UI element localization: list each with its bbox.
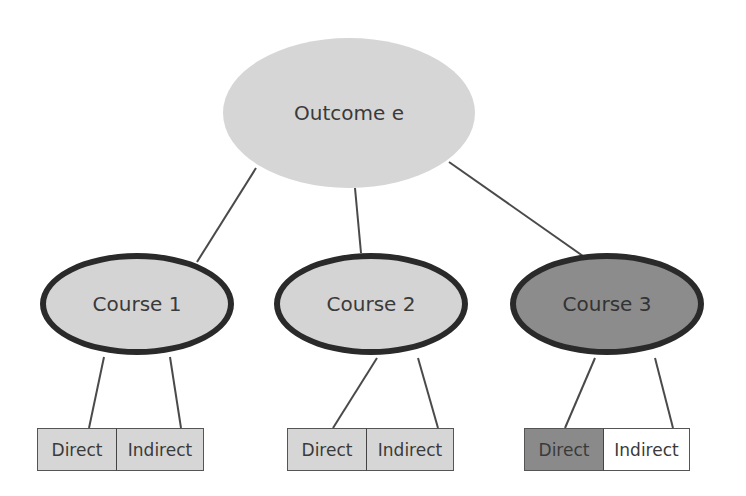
course-3-direct-box: Direct	[524, 428, 604, 471]
course-1-node: Course 1	[40, 253, 234, 355]
outcome-label: Outcome e	[294, 101, 404, 125]
course-2-indirect-box: Indirect	[367, 428, 454, 471]
edge-course2-direct	[333, 358, 377, 428]
course-3-label: Course 3	[563, 292, 652, 316]
course-2-assessment-boxes: Direct Indirect	[287, 428, 454, 471]
edge-course2-indirect	[418, 358, 438, 428]
edge-outcome-course3	[449, 162, 583, 256]
course-1-indirect-box: Indirect	[117, 428, 204, 471]
edge-outcome-course2	[355, 188, 361, 253]
course-2-node: Course 2	[274, 253, 468, 355]
edge-course3-indirect	[655, 358, 673, 428]
course-1-label: Course 1	[93, 292, 182, 316]
course-3-node: Course 3	[510, 253, 704, 355]
course-3-assessment-boxes: Direct Indirect	[524, 428, 690, 471]
course-2-label: Course 2	[327, 292, 416, 316]
edge-course1-indirect	[170, 357, 181, 428]
edge-outcome-course1	[197, 168, 256, 262]
diagram-canvas: Outcome e Course 1 Course 2 Course 3 Dir…	[0, 0, 746, 496]
course-1-direct-box: Direct	[37, 428, 117, 471]
outcome-node: Outcome e	[223, 38, 475, 188]
course-1-assessment-boxes: Direct Indirect	[37, 428, 204, 471]
edge-course3-direct	[565, 358, 595, 428]
course-3-indirect-box: Indirect	[604, 428, 690, 471]
edge-course1-direct	[89, 357, 104, 428]
course-2-direct-box: Direct	[287, 428, 367, 471]
